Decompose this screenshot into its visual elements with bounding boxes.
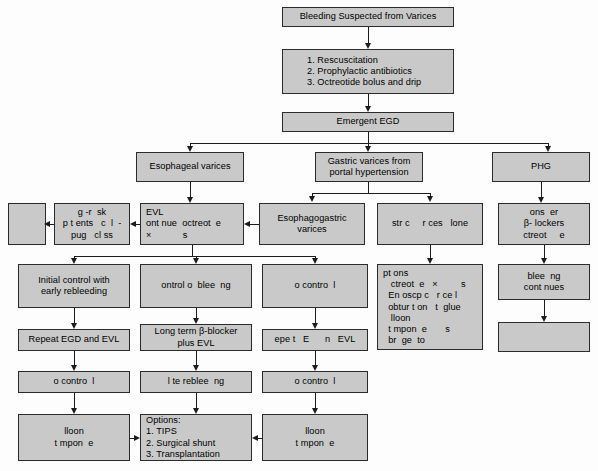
node-label-line-3: pug cl ss (71, 230, 113, 241)
node-label-line-1: Gastric varices from (328, 156, 411, 167)
node-emergent-egd[interactable]: Emergent EGD (282, 112, 454, 132)
arrow-egd-to-esophageal (187, 146, 193, 152)
node-label: l te reblee ng (168, 376, 224, 387)
connector-initial-to-egd (368, 94, 369, 106)
node-label: epe t E n EVL (275, 334, 356, 345)
node-label-line-2: portal hypertension (329, 167, 408, 178)
arrow-repeat-to-nocontrol2 (71, 365, 77, 371)
node-label-line-3: En oscp c r ce l (383, 290, 457, 301)
node-gastric-varices[interactable]: Gastric varices from portal hypertension (315, 152, 423, 182)
node-gastric-varices-options[interactable]: pt ons ctreot e × s En oscp c r ce l obt… (377, 264, 483, 350)
node-balloon-tamponade-right[interactable]: lloon t mpon e (262, 414, 368, 461)
node-esophageal-varices[interactable]: Esophageal varices (136, 152, 244, 182)
node-phg-consider-treatment[interactable]: ons er β- lockers ctreot e (498, 203, 590, 245)
node-long-term-bblocker-plus-evl[interactable]: Long term β-blocker plus EVL (140, 324, 252, 351)
node-initial-control-early-rebleeding[interactable]: Initial control with early rebleeding (18, 264, 130, 308)
node-repeat-egd-evl-2[interactable]: epe t E n EVL (262, 329, 368, 351)
node-blank-far-left[interactable] (8, 203, 46, 245)
connector-nocontrol3-to-balloon-right (315, 393, 316, 408)
arrow-late-rebleeding-to-options (193, 408, 199, 414)
node-label-line-1: g -r sk (78, 207, 106, 218)
connector-evl-down (192, 245, 193, 256)
node-label-line-1: ons er (530, 207, 558, 218)
node-repeat-egd-and-evl[interactable]: Repeat EGD and EVL (18, 329, 130, 351)
node-label: Repeat EGD and EVL (29, 334, 120, 345)
node-label-line-3: × s (146, 230, 187, 241)
node-label-line-3: 2. Surgical shunt (146, 438, 215, 449)
node-label-line-1: Esophagogastric (277, 213, 346, 224)
connector-late-rebleeding-to-options (196, 393, 197, 408)
arrow-consider-to-bleeding-continues (541, 258, 547, 264)
arrow-nocontrol3-to-balloon-right (312, 408, 318, 414)
node-label-line-2: varices (297, 224, 326, 235)
connector-gastric-down (368, 182, 369, 193)
node-label-line-4: 3. Transplantation (146, 449, 220, 460)
node-phg-blank[interactable] (498, 322, 590, 352)
node-phg[interactable]: PHG (492, 152, 590, 182)
node-label-line-2: 1. TIPS (146, 426, 177, 437)
node-bleeding-suspected[interactable]: Bleeding Suspected from Varices (282, 7, 454, 27)
node-esophagogastric-varices[interactable]: Esophagogastric varices (259, 203, 365, 245)
node-label-line-2: ont nue octreot e (146, 218, 221, 229)
node-label-line-2: plus EVL (177, 338, 214, 349)
flowchart-canvas: Bleeding Suspected from Varices 1. Rescu… (0, 0, 598, 471)
node-label-line-5: lloon (383, 313, 410, 324)
connector-consider-to-bleeding-continues (544, 245, 545, 258)
node-late-rebleeding[interactable]: l te reblee ng (140, 371, 252, 393)
node-label: Bleeding Suspected from Varices (300, 11, 437, 22)
connector-evl-to-high-risk (136, 224, 140, 225)
arrow-initial-control-to-repeat (71, 323, 77, 329)
node-label-line-2: ctreot e × s (383, 279, 466, 290)
arrow-esophagogastric-to-evl (244, 221, 250, 227)
node-label-line-1: lloon (64, 426, 84, 437)
connector-initial-control-to-repeat (74, 308, 75, 323)
arrow-nocontrol1-to-repeat2 (312, 323, 318, 329)
node-label-line-1: Initial control with (38, 275, 109, 286)
arrow-control-to-longterm (193, 318, 199, 324)
arrow-evl-to-initial-control (71, 258, 77, 264)
node-salvage-options[interactable]: Options: 1. TIPS 2. Surgical shunt 3. Tr… (140, 414, 252, 461)
arrow-nocontrol2-to-balloon-left (71, 408, 77, 414)
connector-esophagogastric-to-evl (250, 224, 259, 225)
arrow-phg-to-consider (538, 197, 544, 203)
node-label-line-1: EVL (146, 207, 164, 218)
node-label: ontrol o blee ng (161, 280, 230, 291)
node-label-line-4: obtur t on t glue (383, 302, 461, 313)
connector-bleeding-continues-to-blank (544, 300, 545, 316)
connector-high-risk-to-blank (50, 224, 54, 225)
node-label-line-1: blee ng (527, 271, 560, 282)
node-bleeding-continues[interactable]: blee ng cont nues (498, 264, 590, 300)
node-label: str c r ces lone (392, 218, 468, 229)
node-control-of-bleeding[interactable]: ontrol o blee ng (140, 264, 252, 308)
connector-control-to-longterm (196, 308, 197, 318)
node-balloon-tamponade-left[interactable]: lloon t mpon e (18, 414, 130, 461)
connector-nocontrol1-to-repeat2 (315, 308, 316, 323)
node-initial-measures[interactable]: 1. Rescuscitation 2. Prophylactic antibi… (282, 49, 454, 94)
arrow-egd-to-gastric (365, 146, 371, 152)
arrow-root-to-initial (365, 43, 371, 49)
arrow-longterm-to-late-rebleeding (193, 365, 199, 371)
connector-repeat-to-nocontrol2 (74, 351, 75, 365)
node-label-line-2: t mpon e (55, 438, 94, 449)
connector-esophageal-to-evl (190, 182, 191, 197)
node-no-control-2[interactable]: o contro l (18, 371, 130, 393)
connector-gastric-bus (312, 193, 430, 194)
node-high-risk-patients[interactable]: g -r sk p t ents c l - pug cl ss (54, 203, 130, 245)
arrow-evl-to-control-of-bleeding (193, 258, 199, 264)
node-no-control-1[interactable]: o contro l (262, 264, 368, 308)
arrow-evl-to-high-risk (130, 221, 136, 227)
node-no-control-3[interactable]: o contro l (262, 371, 368, 393)
connector-nocontrol2-to-balloon-left (74, 393, 75, 408)
node-evl[interactable]: EVL ont nue octreot e × s (140, 203, 244, 245)
node-label-line-1: pt ons (383, 268, 408, 279)
arrow-balloon-right-to-options (252, 435, 258, 441)
arrow-gastric-to-esophagogastric (309, 196, 315, 202)
connector-root-to-initial (368, 27, 369, 43)
node-label-line-1: Long term β-blocker (155, 326, 238, 337)
arrow-balloon-left-to-options (134, 435, 140, 441)
connector-egd-bus (190, 143, 548, 144)
node-label: Emergent EGD (337, 116, 400, 127)
node-gastric-varices-alone[interactable]: str c r ces lone (377, 203, 483, 245)
connector-egd-down (368, 132, 369, 143)
arrow-evl-to-no-control (312, 258, 318, 264)
